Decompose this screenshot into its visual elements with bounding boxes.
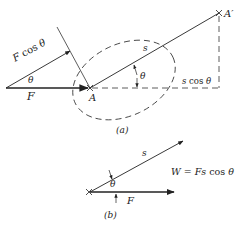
angle-indicator-top-arrow-b: [109, 170, 112, 179]
caption-b: (b): [104, 210, 117, 220]
displacement-arrow-b: [90, 141, 183, 192]
theta-right-label: θ: [140, 71, 146, 81]
point-a-label: A: [88, 92, 96, 103]
angle-indicator-top-arrow: [134, 65, 137, 75]
point-a-prime-marker-icon: [216, 10, 222, 16]
work-diagram: F cos θ θ F A A′ s θ s cos θ (a) s θ F W…: [0, 0, 237, 226]
caption-a: (a): [116, 125, 129, 135]
theta-label-b: θ: [110, 179, 116, 189]
force-label: F: [26, 90, 35, 103]
work-formula: W = Fs cos θ: [171, 166, 234, 177]
displacement-label-b: s: [142, 148, 147, 158]
force-component-label: F cos θ: [10, 37, 48, 65]
panel-b: s θ F W = Fs cos θ (b): [86, 141, 234, 220]
force-label-b: F: [126, 195, 135, 206]
point-a-prime-label: A′: [223, 8, 234, 19]
perpendicular-line: [57, 27, 90, 88]
panel-a: F cos θ θ F A A′ s θ s cos θ (a): [6, 8, 234, 135]
body-outline-ellipse: [60, 25, 188, 136]
displacement-label: s: [143, 43, 148, 53]
displacement-component-label: s cos θ: [182, 76, 211, 86]
theta-left-label: θ: [28, 75, 34, 85]
